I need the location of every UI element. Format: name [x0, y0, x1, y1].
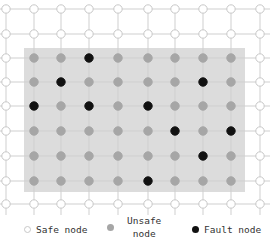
- safe-node: [256, 102, 264, 110]
- legend-unsafe-line2: node: [133, 228, 156, 239]
- unsafe-node: [30, 127, 38, 135]
- safe-node: [227, 5, 235, 13]
- safe-node: [2, 200, 10, 208]
- safe-node: [57, 200, 65, 208]
- unsafe-node: [30, 177, 38, 185]
- safe-node: [57, 5, 65, 13]
- unsafe-node: [85, 78, 93, 86]
- fault-node: [144, 177, 152, 185]
- safe-node: [171, 200, 179, 208]
- safe-node: [85, 200, 93, 208]
- legend-fault: Fault node: [192, 224, 261, 235]
- legend-unsafe-label: Unsafe node: [127, 214, 161, 240]
- unsafe-node: [57, 177, 65, 185]
- unsafe-node-icon: [107, 224, 114, 231]
- unsafe-node: [57, 54, 65, 62]
- safe-node: [114, 200, 122, 208]
- safe-node: [114, 30, 122, 38]
- fault-node: [57, 78, 65, 86]
- fault-node: [85, 102, 93, 110]
- fault-node: [199, 152, 207, 160]
- safe-node: [199, 5, 207, 13]
- safe-node: [85, 30, 93, 38]
- unsafe-node: [227, 54, 235, 62]
- unsafe-region: [24, 48, 245, 192]
- safe-node: [256, 30, 264, 38]
- fault-node: [199, 78, 207, 86]
- unsafe-node: [114, 127, 122, 135]
- safe-node: [256, 5, 264, 13]
- unsafe-node: [144, 152, 152, 160]
- safe-node: [144, 5, 152, 13]
- unsafe-node: [199, 102, 207, 110]
- unsafe-node: [199, 177, 207, 185]
- safe-node: [256, 54, 264, 62]
- unsafe-node: [144, 127, 152, 135]
- safe-node: [256, 78, 264, 86]
- legend-fault-label: Fault node: [204, 224, 261, 235]
- safe-node: [30, 5, 38, 13]
- fault-node: [30, 102, 38, 110]
- safe-node: [256, 177, 264, 185]
- fault-node: [171, 127, 179, 135]
- safe-node: [171, 30, 179, 38]
- unsafe-node: [114, 152, 122, 160]
- unsafe-node: [171, 102, 179, 110]
- unsafe-node: [199, 54, 207, 62]
- safe-node: [256, 200, 264, 208]
- unsafe-node: [227, 152, 235, 160]
- unsafe-node: [114, 177, 122, 185]
- safe-node: [30, 200, 38, 208]
- safe-node: [2, 30, 10, 38]
- unsafe-node: [114, 78, 122, 86]
- safe-node: [199, 200, 207, 208]
- safe-node: [2, 127, 10, 135]
- safe-node: [2, 177, 10, 185]
- safe-node: [57, 30, 65, 38]
- safe-node: [227, 30, 235, 38]
- safe-node: [144, 200, 152, 208]
- safe-node: [2, 54, 10, 62]
- unsafe-node: [227, 102, 235, 110]
- unsafe-node: [114, 102, 122, 110]
- safe-node: [30, 30, 38, 38]
- safe-node-icon: [24, 226, 31, 233]
- legend-unsafe: Unsafe node: [107, 214, 161, 240]
- legend-unsafe-line1: Unsafe: [127, 215, 161, 226]
- fault-node: [85, 54, 93, 62]
- unsafe-node: [85, 127, 93, 135]
- safe-node: [2, 152, 10, 160]
- unsafe-node: [57, 152, 65, 160]
- safe-node: [256, 152, 264, 160]
- safe-node: [256, 127, 264, 135]
- legend-safe-label: Safe node: [36, 224, 87, 235]
- safe-node: [227, 200, 235, 208]
- safe-node: [144, 30, 152, 38]
- safe-node: [114, 5, 122, 13]
- fault-node: [144, 102, 152, 110]
- legend-safe: Safe node: [24, 224, 87, 235]
- unsafe-node: [171, 177, 179, 185]
- unsafe-node: [171, 54, 179, 62]
- safe-node: [171, 5, 179, 13]
- safe-node: [85, 5, 93, 13]
- mesh-diagram: [0, 0, 270, 215]
- unsafe-node: [144, 78, 152, 86]
- unsafe-node: [57, 127, 65, 135]
- unsafe-node: [227, 78, 235, 86]
- safe-node: [199, 30, 207, 38]
- unsafe-node: [30, 54, 38, 62]
- unsafe-node: [171, 78, 179, 86]
- unsafe-node: [85, 177, 93, 185]
- fault-node-icon: [192, 226, 199, 233]
- unsafe-node: [171, 152, 179, 160]
- fault-node: [227, 127, 235, 135]
- unsafe-node: [85, 152, 93, 160]
- unsafe-node: [114, 54, 122, 62]
- unsafe-node: [30, 152, 38, 160]
- legend: Safe node Unsafe node Fault node: [0, 214, 270, 246]
- unsafe-node: [30, 78, 38, 86]
- unsafe-node: [199, 127, 207, 135]
- safe-node: [2, 102, 10, 110]
- unsafe-node: [144, 54, 152, 62]
